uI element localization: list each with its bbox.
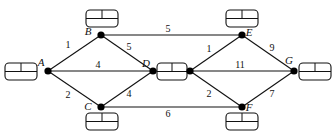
node-label-d: D bbox=[141, 57, 150, 69]
edge-weight-label: 2 bbox=[66, 89, 71, 100]
edge-weight-label: 4 bbox=[127, 88, 132, 99]
edge-a-c bbox=[48, 71, 101, 107]
edge-weight-label: 1 bbox=[66, 39, 71, 50]
node-f bbox=[238, 103, 245, 110]
edge-weight-label: 2 bbox=[207, 88, 212, 99]
node-label-c: C bbox=[84, 100, 92, 112]
node-a bbox=[44, 67, 51, 74]
node-label-a: A bbox=[37, 56, 45, 68]
edge-weight-label: 7 bbox=[270, 88, 275, 99]
edge-weight-label: 5 bbox=[166, 23, 171, 34]
node-label-b: B bbox=[85, 25, 92, 37]
edge-weight-label: 9 bbox=[270, 42, 275, 53]
edge-weight-label: 1 bbox=[207, 43, 212, 54]
time-box-g bbox=[299, 63, 331, 80]
node-label-e: E bbox=[245, 26, 253, 38]
network-diagram: 1425456111297ABCDEFG bbox=[0, 0, 336, 137]
edge-weight-label: 6 bbox=[166, 108, 171, 119]
edge-weight-label: 4 bbox=[96, 59, 101, 70]
time-box-c bbox=[86, 113, 118, 130]
node-c bbox=[97, 103, 104, 110]
time-box-f bbox=[226, 113, 258, 130]
node-b bbox=[97, 31, 104, 38]
node-label-f: F bbox=[245, 101, 253, 113]
edge-weight-label: 5 bbox=[127, 41, 132, 52]
edge-weight-label: 11 bbox=[235, 59, 245, 70]
node-d2 bbox=[186, 67, 193, 74]
time-box-d bbox=[157, 63, 187, 80]
time-box-e bbox=[226, 10, 258, 27]
node-label-g: G bbox=[285, 54, 293, 66]
time-box-a bbox=[5, 63, 37, 80]
node-g bbox=[290, 67, 297, 74]
node-d bbox=[149, 67, 156, 74]
node-e bbox=[238, 31, 245, 38]
edge-a-b bbox=[48, 35, 101, 71]
edge-d2-f bbox=[190, 71, 242, 107]
